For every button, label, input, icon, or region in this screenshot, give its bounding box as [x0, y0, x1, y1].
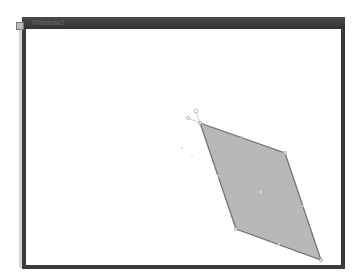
anchor-handle-icon[interactable] [186, 116, 189, 119]
guide-dot-icon [199, 159, 201, 161]
vertex-handle-icon[interactable] [198, 121, 201, 124]
center-point-icon[interactable] [260, 191, 262, 193]
vertex-handle-icon[interactable] [234, 227, 237, 230]
edge-midpoint-handle-icon[interactable] [278, 243, 280, 245]
vertex-handle-icon[interactable] [319, 258, 322, 261]
vertex-handle-icon[interactable] [283, 151, 286, 154]
rotation-handle-icon[interactable] [194, 109, 198, 113]
guide-dot-icon [191, 155, 193, 157]
edge-midpoint-handle-icon[interactable] [241, 136, 243, 138]
edge-midpoint-handle-icon[interactable] [302, 205, 304, 207]
edge-midpoint-handle-icon[interactable] [217, 175, 219, 177]
shape-layer [0, 0, 360, 280]
guide-dot-icon [181, 147, 183, 149]
